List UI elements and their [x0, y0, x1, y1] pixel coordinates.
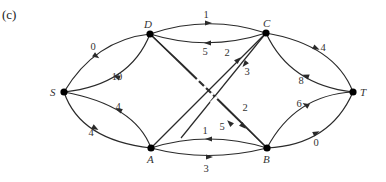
- node-t: [349, 88, 356, 95]
- node-label-t: T: [360, 86, 367, 98]
- network-graph: 01044152325134860 SDCTAB: [0, 0, 386, 182]
- edge-d-c: [150, 24, 266, 34]
- node-label-c: C: [263, 17, 271, 29]
- edge-b-t: [267, 92, 353, 148]
- edge-s-a: [64, 92, 151, 148]
- node-label-b: B: [263, 153, 270, 165]
- capacity-label: 3: [203, 163, 208, 174]
- node-label-a: A: [146, 153, 154, 165]
- arrowhead-icon: [204, 40, 211, 45]
- capacity-label: 3: [244, 66, 249, 77]
- capacity-label: 1: [203, 9, 208, 20]
- crossing-gap: [193, 79, 199, 85]
- arrowhead-icon: [205, 20, 212, 25]
- flow-network-figure: (c) 01044152325134860 SDCTAB: [0, 0, 386, 182]
- node-a: [147, 144, 154, 151]
- edge-t-b: [267, 92, 353, 148]
- capacity-label: 8: [298, 75, 303, 86]
- capacity-label: 2: [224, 47, 229, 58]
- edge-a-b: [151, 148, 267, 156]
- arrowhead-icon: [92, 52, 101, 60]
- node-label-s: S: [50, 86, 56, 98]
- capacity-label: 0: [90, 41, 95, 52]
- node-b: [263, 144, 270, 151]
- edge-c-t: [266, 33, 353, 92]
- crossing-gap: [207, 93, 213, 99]
- arrowheads-layer: [91, 20, 321, 159]
- capacity-label: 10: [112, 71, 123, 82]
- capacity-label: 4: [115, 101, 121, 112]
- capacity-label: 0: [313, 137, 318, 148]
- capacity-label: 4: [88, 127, 94, 138]
- capacity-label: 5: [202, 46, 207, 57]
- node-label-d: D: [143, 18, 152, 30]
- node-c: [262, 29, 269, 36]
- capacity-label: 1: [202, 125, 207, 136]
- arrowhead-icon: [205, 136, 212, 141]
- node-d: [146, 30, 153, 37]
- node-s: [60, 88, 67, 95]
- edge-c-d: [150, 33, 266, 43]
- crossing-gap: [211, 97, 217, 103]
- capacity-label: 5: [219, 121, 224, 132]
- crossing-gap: [200, 86, 206, 92]
- edge-d-s: [64, 34, 150, 92]
- capacity-label: 6: [296, 98, 301, 109]
- edge-t-c: [266, 33, 353, 92]
- edge-s-d: [64, 34, 150, 92]
- capacity-label: 2: [242, 102, 247, 113]
- capacity-label: 4: [320, 42, 326, 53]
- panel-label: (c): [2, 7, 16, 23]
- arrowhead-icon: [225, 118, 234, 127]
- edge-a-s: [64, 92, 151, 148]
- crossing-gaps-layer: [193, 79, 217, 103]
